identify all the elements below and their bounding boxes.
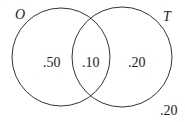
set-label-t: T	[163, 10, 171, 24]
value-intersection: .10	[82, 56, 100, 70]
set-label-o: O	[15, 8, 25, 22]
value-outside: .20	[160, 104, 178, 118]
value-t-only: .20	[128, 56, 146, 70]
value-o-only: .50	[43, 56, 61, 70]
